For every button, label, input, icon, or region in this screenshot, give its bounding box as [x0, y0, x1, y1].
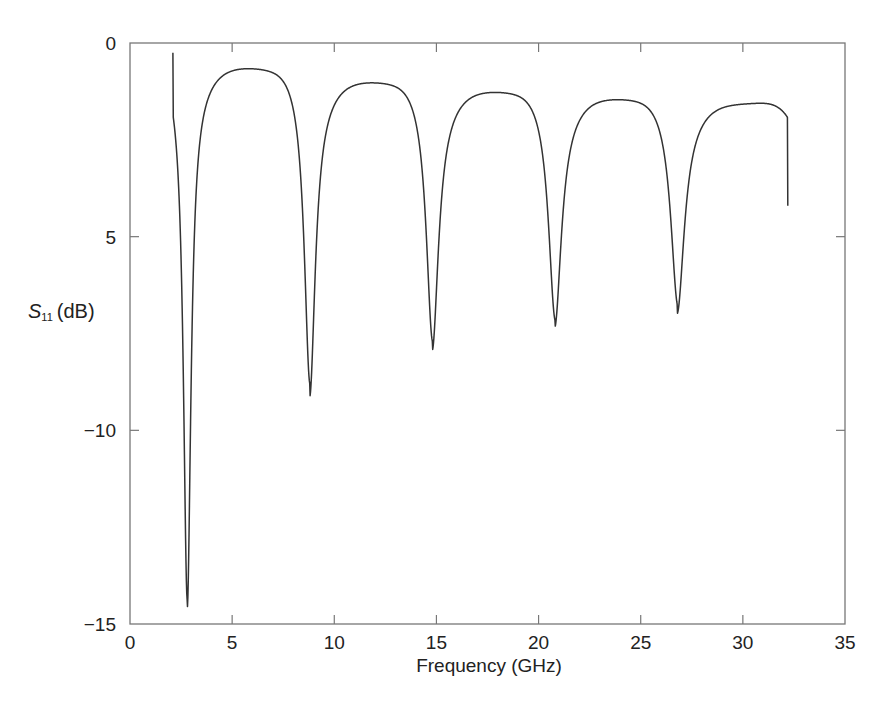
y-tick-label: −15: [84, 614, 116, 635]
x-axis-ticks: 05101520253035: [125, 43, 856, 653]
plot-frame: [130, 43, 845, 624]
plot-border: [130, 43, 845, 624]
y-tick-label: −10: [84, 420, 116, 441]
x-tick-label: 5: [227, 632, 238, 653]
x-tick-label: 30: [732, 632, 753, 653]
x-tick-label: 10: [324, 632, 345, 653]
x-tick-label: 25: [630, 632, 651, 653]
x-tick-label: 15: [426, 632, 447, 653]
y-axis-ticks: 05−10−15: [84, 33, 845, 635]
y-axis-unit: (dB): [57, 300, 95, 322]
y-tick-label: 0: [105, 33, 116, 54]
s11-curve: [173, 53, 788, 607]
y-axis-symbol: S: [28, 300, 41, 322]
x-axis-title: Frequency (GHz): [416, 655, 562, 676]
x-tick-label: 20: [528, 632, 549, 653]
y-axis-subscript: 11: [41, 311, 52, 323]
s11-line-chart: 05101520253035 05−10−15 Frequency (GHz): [0, 0, 886, 724]
y-axis-title: S11 (dB): [28, 300, 95, 323]
y-tick-label: 5: [105, 227, 116, 248]
x-tick-label: 35: [834, 632, 855, 653]
x-tick-label: 0: [125, 632, 136, 653]
